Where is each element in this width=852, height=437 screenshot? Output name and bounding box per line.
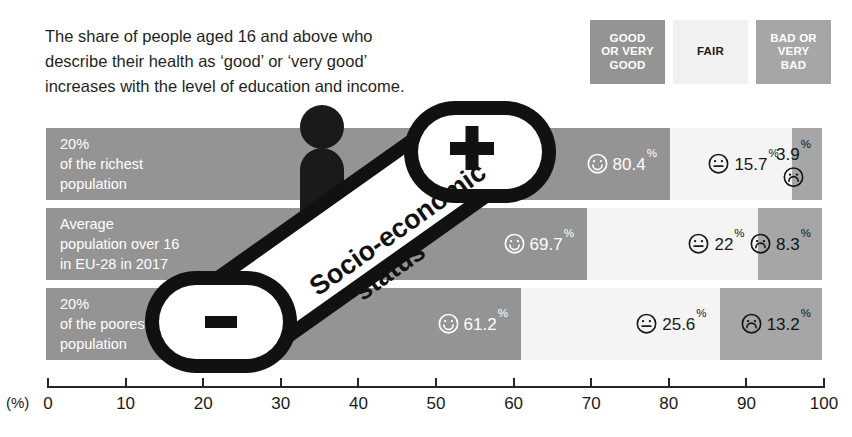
axis-tick [513,378,515,388]
axis-tick [125,378,127,388]
axis-tick [590,378,592,388]
axis-tick-label: 40 [349,394,368,414]
smiley-happy-icon [504,234,525,255]
value-group: 3.9% [776,141,810,188]
axis-tick [745,378,747,388]
bar-row: 20%of the richestpopulation80.4%15.7%3.9… [46,128,822,200]
axis-tick-label: 20 [194,394,213,414]
value-number: 69.7% [530,233,573,255]
smiley-neutral-icon [636,314,657,335]
row-label: 20%of the poorestpopulation [60,294,149,354]
value-group: 22% [688,233,743,255]
axis-tick [47,378,49,388]
row-label-line: population [60,334,149,354]
axis-tick-label: 30 [271,394,290,414]
axis-tick-label: 90 [737,394,756,414]
x-axis: (%) 0102030405060708090100 [0,376,852,436]
segment-bad: 3.9% [792,128,822,200]
axis-tick-label: 50 [427,394,446,414]
row-label-line: population over 16 [60,234,179,254]
smiley-sad-icon [783,166,804,187]
axis-tick [202,378,204,388]
percent-sign: % [801,307,811,319]
axis-tick [823,378,825,388]
value-number: 8.3% [776,233,810,255]
segment-good: Averagepopulation over 16in EU-28 in 201… [46,208,587,280]
axis-unit-label: (%) [6,394,29,411]
percent-sign: % [564,227,574,239]
percent-sign: % [498,307,508,319]
percent-sign: % [801,138,811,150]
row-label-line: 20% [60,294,149,314]
value-group: 61.2% [438,313,507,335]
value-number: 15.7% [734,153,777,175]
segment-good: 20%of the poorestpopulation61.2% [46,288,521,360]
value-number: 22% [714,233,743,255]
row-label-line: population [60,174,143,194]
segment-fair: 25.6% [521,288,720,360]
smiley-sad-icon [750,234,771,255]
value-number: 13.2% [767,313,810,335]
segment-good: 20%of the richestpopulation80.4% [46,128,670,200]
axis-tick [280,378,282,388]
row-label-line: in EU-28 in 2017 [60,254,179,274]
axis-tick-label: 10 [116,394,135,414]
stacked-bar-chart: 20%of the richestpopulation80.4%15.7%3.9… [0,0,852,437]
axis-tick-label: 70 [582,394,601,414]
axis-tick [435,378,437,388]
value-group: 69.7% [504,233,573,255]
axis-tick-label: 0 [43,394,52,414]
segment-bad: 8.3% [758,208,822,280]
percent-sign: % [647,147,657,159]
axis-tick [357,378,359,388]
smiley-sad-icon [741,314,762,335]
value-group: 80.4% [587,153,656,175]
smiley-happy-icon [438,314,459,335]
bar-row: 20%of the poorestpopulation61.2%25.6%13.… [46,288,822,360]
value-group: 15.7% [708,153,777,175]
row-label-line: Average [60,214,179,234]
smiley-neutral-icon [688,234,709,255]
value-group: 8.3% [750,233,810,255]
row-label-line: of the richest [60,154,143,174]
axis-tick-label: 100 [810,394,838,414]
value-number: 80.4% [613,153,656,175]
axis-tick [668,378,670,388]
smiley-neutral-icon [708,154,729,175]
value-group: 25.6% [636,313,705,335]
value-number: 61.2% [464,313,507,335]
value-number: 25.6% [662,313,705,335]
segment-fair: 22% [587,208,758,280]
row-label-line: 20% [60,134,143,154]
row-label: 20%of the richestpopulation [60,134,143,194]
percent-sign: % [734,227,744,239]
row-label-line: of the poorest [60,314,149,334]
segment-fair: 15.7% [670,128,792,200]
smiley-happy-icon [587,154,608,175]
percent-sign: % [801,227,811,239]
bar-row: Averagepopulation over 16in EU-28 in 201… [46,208,822,280]
value-group: 13.2% [741,313,810,335]
row-label: Averagepopulation over 16in EU-28 in 201… [60,214,179,274]
segment-bad: 13.2% [720,288,822,360]
axis-tick-label: 60 [504,394,523,414]
axis-tick-label: 80 [659,394,678,414]
percent-sign: % [696,307,706,319]
value-number: 3.9% [776,141,810,165]
